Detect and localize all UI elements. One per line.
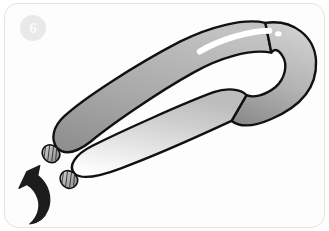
balloon-illustration [5, 4, 324, 227]
step-number-badge: 6 [20, 15, 46, 41]
lower-balloon-nozzle [60, 171, 78, 189]
balloon-body [53, 21, 316, 176]
step-number-label: 6 [29, 21, 37, 36]
upper-balloon-nozzle [42, 145, 60, 163]
balloon-gloss-dot [275, 31, 282, 36]
counter-clockwise-twist-arrow-icon [19, 166, 50, 224]
instruction-card: 6 [4, 3, 325, 228]
